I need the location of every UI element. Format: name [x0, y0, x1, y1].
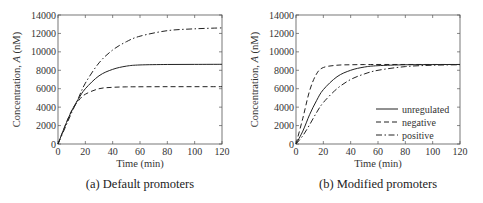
- x-tick-label: 60: [373, 146, 383, 157]
- y-tick-label: 12000: [269, 28, 294, 39]
- panel-default-promoters: 0204060801001200200040006000800010000120…: [11, 10, 230, 192]
- series-negative: [58, 87, 222, 144]
- x-axis-label: Time (min): [116, 158, 164, 170]
- legend-entry-negative: negative: [402, 117, 436, 128]
- plot-area: [58, 15, 222, 144]
- x-tick-label: 0: [294, 146, 299, 157]
- y-tick-label: 8000: [274, 65, 294, 76]
- figure: 0204060801001200200040006000800010000120…: [0, 0, 483, 203]
- x-tick-label: 40: [108, 146, 118, 157]
- y-tick-label: 14000: [269, 10, 294, 21]
- y-tick-label: 6000: [36, 83, 56, 94]
- series-positive: [58, 28, 222, 144]
- panel-modified-promoters: 0204060801001200200040006000800010000120…: [249, 10, 468, 192]
- y-axis-label: Concentration, A (nM): [11, 31, 23, 127]
- y-tick-label: 10000: [31, 46, 56, 57]
- x-tick-label: 20: [318, 146, 328, 157]
- x-tick-label: 120: [453, 146, 468, 157]
- y-axis-label: Concentration, A (nM): [249, 31, 261, 127]
- y-tick-label: 8000: [36, 65, 56, 76]
- legend: unregulatednegativepositive: [376, 104, 449, 141]
- x-tick-label: 120: [215, 146, 230, 157]
- y-tick-label: 0: [289, 139, 294, 150]
- series-unregulated: [58, 64, 222, 144]
- x-tick-label: 40: [346, 146, 356, 157]
- x-tick-label: 60: [135, 146, 145, 157]
- y-tick-label: 6000: [274, 83, 294, 94]
- legend-entry-unregulated: unregulated: [402, 104, 449, 115]
- y-tick-label: 0: [51, 139, 56, 150]
- x-tick-label: 100: [425, 146, 440, 157]
- figure-caption: (a) Default promoters: [86, 177, 194, 191]
- y-tick-label: 4000: [36, 102, 56, 113]
- y-tick-label: 4000: [274, 102, 294, 113]
- y-tick-label: 14000: [31, 10, 56, 21]
- y-tick-label: 12000: [31, 28, 56, 39]
- x-tick-label: 100: [187, 146, 202, 157]
- legend-entry-positive: positive: [402, 130, 434, 141]
- y-tick-label: 2000: [36, 120, 56, 131]
- x-tick-label: 80: [400, 146, 410, 157]
- x-axis-label: Time (min): [354, 158, 402, 170]
- y-tick-label: 2000: [274, 120, 294, 131]
- x-tick-label: 0: [56, 146, 61, 157]
- figure-caption: (b) Modified promoters: [319, 177, 437, 191]
- x-tick-label: 80: [162, 146, 172, 157]
- x-tick-label: 20: [80, 146, 90, 157]
- y-tick-label: 10000: [269, 46, 294, 57]
